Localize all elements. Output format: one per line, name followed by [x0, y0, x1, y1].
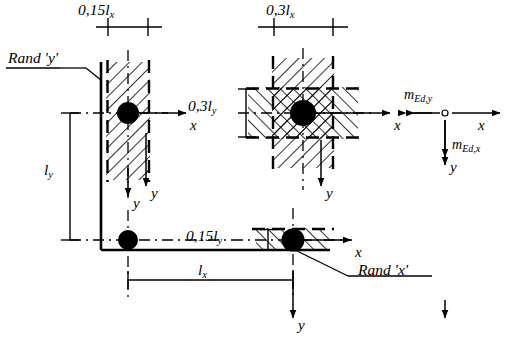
callout-rand-x: Rand 'x' — [358, 262, 408, 278]
dimension-label-0-15ly: 0,15ly — [186, 228, 222, 246]
axis-label-y-interior-column: y — [326, 186, 333, 201]
dimension-label-0-15lx: 0,15lx — [78, 2, 114, 20]
figure-canvas: 0,15lx 0,3lx 0,3ly 0,15ly ly lx Rand 'y'… — [0, 0, 508, 351]
axis-label-y-moment-detail: y — [450, 160, 457, 175]
dimension-label-0-3lx: 0,3lx — [266, 2, 294, 20]
callout-rand-y: Rand 'y' — [8, 50, 58, 66]
axis-label-x-edge-column-y: x — [190, 118, 197, 133]
axis-label-x-interior-column: x — [394, 118, 401, 133]
moment-label-med-x: mEd,x — [452, 138, 480, 154]
moment-label-med-y: mEd,y — [404, 88, 432, 104]
axis-label-x-moment-detail: x — [478, 118, 485, 133]
dimension-label-0-3ly: 0,3ly — [188, 98, 216, 116]
diagram-graphics — [0, 0, 508, 351]
axis-label-y-corner-column: y — [133, 196, 140, 211]
axis-label-y-edge-column-y: y — [151, 186, 158, 201]
dimension-label-ly: ly — [44, 162, 53, 180]
dimension-label-lx: lx — [198, 262, 207, 280]
axis-label-x-edge-column-x: x — [355, 245, 362, 260]
axis-label-y-edge-column-x: y — [298, 318, 305, 333]
local-axes — [128, 113, 390, 318]
